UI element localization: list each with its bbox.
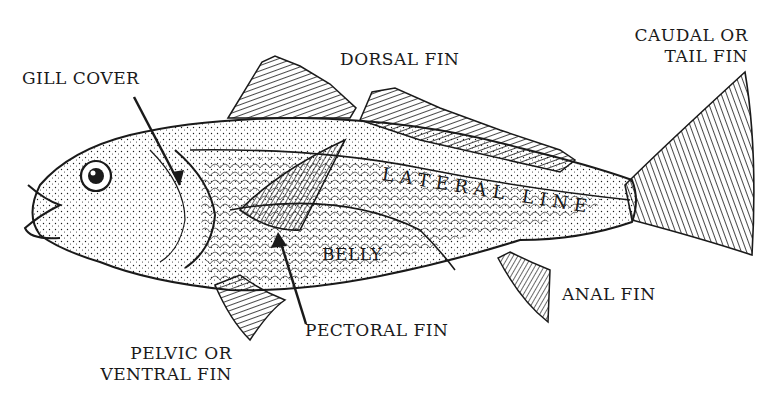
label-pelvic-fin: PELVIC OR VENTRAL FIN [60, 343, 232, 385]
label-pelvic-line2: VENTRAL FIN [60, 364, 232, 385]
label-dorsal-fin: DORSAL FIN [340, 49, 459, 70]
fish-diagram: GILL COVER DORSAL FIN CAUDAL OR TAIL FIN… [0, 0, 779, 407]
label-caudal-line2: TAIL FIN [588, 46, 748, 67]
label-belly: BELLY [322, 244, 382, 265]
eye [81, 161, 111, 191]
label-pectoral-fin: PECTORAL FIN [305, 320, 448, 341]
label-caudal-fin: CAUDAL OR TAIL FIN [588, 25, 748, 67]
label-pelvic-line1: PELVIC OR [60, 343, 232, 364]
label-gill-cover: GILL COVER [22, 68, 139, 89]
label-anal-fin: ANAL FIN [562, 284, 656, 305]
anal-fin-shape [498, 252, 550, 322]
label-caudal-line1: CAUDAL OR [588, 25, 748, 46]
caudal-fin-shape [625, 72, 754, 255]
